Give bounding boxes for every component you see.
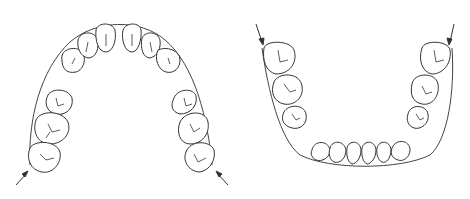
upper-arch xyxy=(16,24,228,185)
dental-arch-diagram xyxy=(0,0,470,199)
upper-left-posterior-teeth xyxy=(29,90,73,172)
lower-anterior-teeth xyxy=(311,141,410,164)
upper-anterior-teeth xyxy=(62,24,180,72)
lower-right-posterior-teeth xyxy=(407,42,450,128)
lower-arrows xyxy=(256,24,454,45)
lower-arch xyxy=(256,24,454,166)
upper-right-posterior-teeth xyxy=(172,90,214,172)
lower-left-posterior-teeth xyxy=(264,42,307,128)
upper-arrows xyxy=(16,171,228,185)
